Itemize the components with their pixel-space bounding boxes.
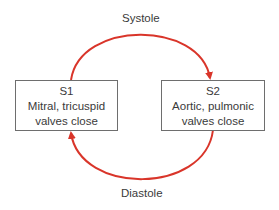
s1-line2: valves close [16,114,117,129]
s2-title: S2 [162,84,264,99]
s1-title: S1 [16,84,117,99]
s2-node: S2 Aortic, pulmonic valves close [161,80,265,131]
systole-arrow [71,35,210,80]
s1-node: S1 Mitral, tricuspid valves close [15,80,118,131]
systole-label: Systole [122,12,160,24]
s2-line1: Aortic, pulmonic [162,99,264,114]
s1-line1: Mitral, tricuspid [16,99,117,114]
diastole-label: Diastole [121,187,163,199]
diastole-arrow [71,130,213,179]
s2-line2: valves close [162,114,264,129]
